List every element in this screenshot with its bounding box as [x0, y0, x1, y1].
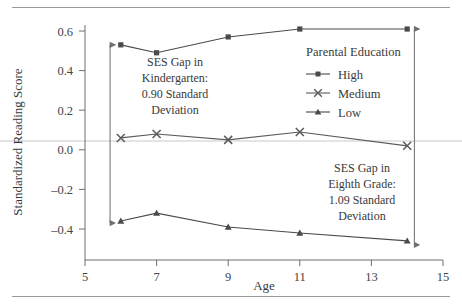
- annotation-line: SES Gap in: [147, 55, 203, 69]
- x-tick-label: 9: [225, 270, 231, 284]
- marker-square: [226, 34, 231, 39]
- x-tick-label: 15: [437, 270, 450, 284]
- y-axis-title: Standardized Reading Score: [10, 68, 25, 216]
- series-line: [121, 132, 407, 146]
- marker-square: [297, 26, 302, 31]
- x-axis-title: Age: [253, 278, 275, 293]
- annotation-line: SES Gap in: [334, 161, 390, 175]
- figure-container: –0.4–0.20.00.20.40.6 579111315 Standardi…: [0, 0, 462, 308]
- y-tick-label: –0.2: [50, 183, 73, 197]
- y-tick-label: 0.4: [57, 64, 73, 78]
- annotation-line: Deviation: [338, 209, 385, 223]
- annotation-line: Deviation: [151, 103, 198, 117]
- x-tick-label: 13: [365, 270, 378, 284]
- y-axis-ticks: –0.4–0.20.00.20.40.6: [50, 25, 85, 237]
- series-medium: [117, 128, 411, 150]
- marker-square: [118, 42, 123, 47]
- legend-entries: HighMediumLow: [306, 68, 381, 120]
- annotation-line: 0.90 Standard: [142, 87, 209, 101]
- chart-legend: Parental Education HighMediumLow: [306, 45, 402, 120]
- annotation-kindergarten-gap: SES Gap inKindergarten:0.90 StandardDevi…: [142, 55, 209, 117]
- legend-label: High: [338, 68, 364, 82]
- line-chart: –0.4–0.20.00.20.40.6 579111315 Standardi…: [0, 0, 462, 308]
- annotation-line: 1.09 Standard: [329, 193, 396, 207]
- y-tick-label: –0.4: [50, 223, 74, 237]
- marker-square: [316, 72, 321, 77]
- annotation-line: Eighth Grade:: [328, 177, 396, 191]
- y-tick-label: 0.6: [57, 25, 73, 39]
- legend-item-medium: Medium: [306, 87, 381, 101]
- legend-label: Low: [338, 106, 361, 120]
- y-tick-label: 0.0: [57, 143, 73, 157]
- annotation-line: Kindergarten:: [142, 71, 208, 85]
- x-tick-label: 5: [82, 270, 88, 284]
- y-tick-label: 0.2: [57, 104, 73, 118]
- marker-square: [405, 26, 410, 31]
- marker-triangle: [153, 210, 160, 216]
- legend-title: Parental Education: [306, 45, 402, 59]
- annotation-eighth-grade-gap: SES Gap inEighth Grade:1.09 StandardDevi…: [328, 161, 396, 223]
- legend-item-low: Low: [306, 106, 361, 120]
- x-tick-label: 7: [153, 270, 159, 284]
- x-tick-label: 11: [294, 270, 306, 284]
- legend-item-high: High: [306, 68, 364, 82]
- legend-label: Medium: [338, 87, 381, 101]
